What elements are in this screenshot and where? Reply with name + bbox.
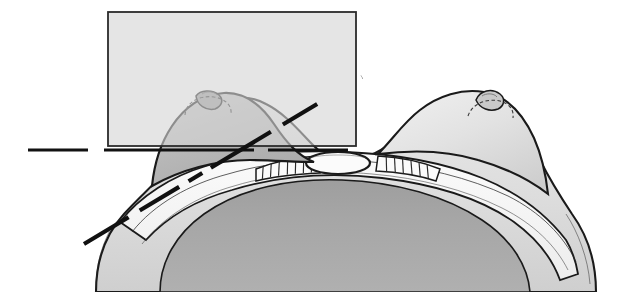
field-of-view-box[interactable] [108,12,356,146]
sternum [306,152,370,174]
figure-canvas: Axial cross-section of female thorax wit… [0,0,643,292]
anatomy-illustration [0,0,643,292]
fov-rectangle[interactable] [108,12,356,146]
